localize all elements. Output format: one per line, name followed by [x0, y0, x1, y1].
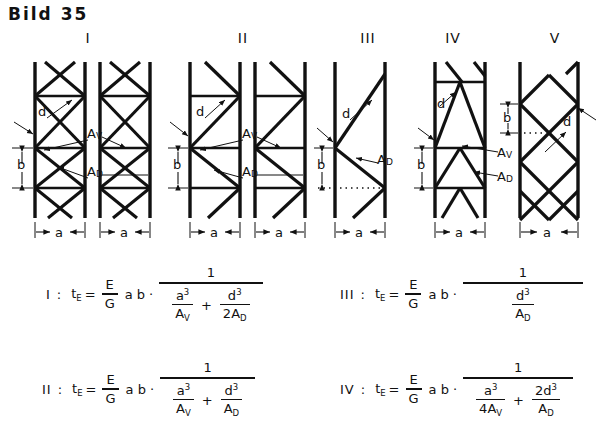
formula-IV-dot: ·: [453, 382, 457, 397]
panel-II-label-a-left: a: [210, 225, 218, 240]
panel-V-bay: [520, 62, 578, 220]
formula-IV-operator: +: [513, 393, 524, 408]
panel-IV-label-av: AV: [497, 145, 512, 160]
panel-IV-label-a: a: [455, 225, 463, 240]
panel-II-label-av: AV: [242, 126, 257, 141]
formula-I-colon: :: [57, 287, 61, 302]
formula-II-main-fraction: 1 a3 AV + d3 AD: [160, 360, 255, 418]
formula-IV-colon: :: [361, 382, 365, 397]
panel-I-label-a-right: a: [120, 225, 128, 240]
panel-I-left-bay: [35, 62, 85, 218]
panel-III-bay: [335, 62, 385, 218]
formula-I-operator: +: [201, 298, 212, 313]
panel-III-label-d: d: [342, 106, 350, 121]
formula-III-dot: ·: [453, 287, 457, 302]
panel-II-label-ad: AD: [242, 164, 258, 179]
formula-III-number: III: [340, 287, 355, 302]
panel-I-label-ad: AD: [87, 164, 103, 179]
formula-IV-equals: =: [389, 382, 400, 397]
formula-I-term-1: a3 AV: [172, 287, 193, 324]
panel-V-label-b: b: [503, 110, 511, 125]
panel-II-label-a-right: a: [275, 225, 283, 240]
panel-I-label-av: AV: [87, 126, 102, 141]
formula-IV: IV : tE = E G a b · 1 a3 4AV + 2d3: [340, 360, 575, 418]
formula-I: I : tE = E G a b · 1 a3 AV + d3: [46, 265, 265, 323]
formula-III-ab: a b: [428, 287, 448, 302]
formula-III-main-fraction: 1 d3 AD: [463, 265, 583, 323]
panel-I-label-b: b: [17, 157, 25, 172]
formula-III-lhs: tE: [375, 286, 385, 303]
panel-I-label-d: d: [38, 104, 46, 119]
panel-IV-label-d: d: [437, 96, 445, 111]
panel-IV-label-ad: AD: [497, 169, 513, 184]
formula-II: II : tE = E G a b · 1 a3 AV + d3: [42, 360, 257, 418]
panel-II-left-bay: [190, 62, 240, 218]
panel-I-label-a-left: a: [55, 225, 63, 240]
formula-II-number: II: [42, 382, 52, 397]
formula-III-colon: :: [361, 287, 365, 302]
formula-IV-lhs: tE: [375, 381, 385, 398]
formula-IV-ab: a b: [429, 382, 449, 397]
panel-V-label-d: d: [563, 114, 571, 129]
formula-I-dot: ·: [149, 287, 153, 302]
formula-I-main-fraction: 1 a3 AV + d3 2AD: [159, 265, 262, 323]
formula-I-modulus-ratio: E G: [102, 277, 118, 311]
formula-II-colon: :: [58, 382, 62, 397]
panel-V-label-a: a: [543, 225, 551, 240]
panel-III-label-a: a: [355, 225, 363, 240]
formula-III-modulus-ratio: E G: [405, 277, 421, 311]
formula-II-modulus-ratio: E G: [102, 372, 118, 406]
figure-page: Bild 35 I II III IV V: [0, 0, 604, 446]
formula-III-term-1: d3 AD: [512, 287, 533, 324]
formula-II-term-2: d3 AD: [221, 382, 242, 419]
formula-II-operator: +: [202, 393, 213, 408]
formula-II-term-1: a3 AV: [173, 382, 194, 419]
formula-IV-main-fraction: 1 a3 4AV + 2d3 AD: [463, 360, 573, 418]
formula-IV-number: IV: [340, 382, 355, 397]
formula-II-ab: a b: [126, 382, 146, 397]
panel-IV-bay: [435, 62, 485, 218]
formula-II-equals: =: [86, 382, 97, 397]
formula-I-lhs: tE: [71, 286, 81, 303]
formula-II-lhs: tE: [72, 381, 82, 398]
formula-IV-modulus-ratio: E G: [406, 372, 422, 406]
formula-I-ab: a b: [125, 287, 145, 302]
formula-III-equals: =: [388, 287, 399, 302]
formula-IV-term-2: 2d3 AD: [532, 382, 560, 419]
panel-III-label-ad: AD: [377, 152, 393, 167]
panel-IV-label-b: b: [417, 157, 425, 172]
formula-I-number: I: [46, 287, 51, 302]
panel-II-label-d: d: [196, 104, 204, 119]
formula-I-term-2: d3 2AD: [220, 287, 250, 324]
formula-IV-term-1: a3 4AV: [476, 382, 505, 419]
formula-I-equals: =: [85, 287, 96, 302]
panel-II-label-b: b: [173, 157, 181, 172]
panel-III-label-b: b: [317, 157, 325, 172]
formula-III: III : tE = E G a b · 1 d3 AD: [340, 265, 585, 323]
formula-II-dot: ·: [150, 382, 154, 397]
